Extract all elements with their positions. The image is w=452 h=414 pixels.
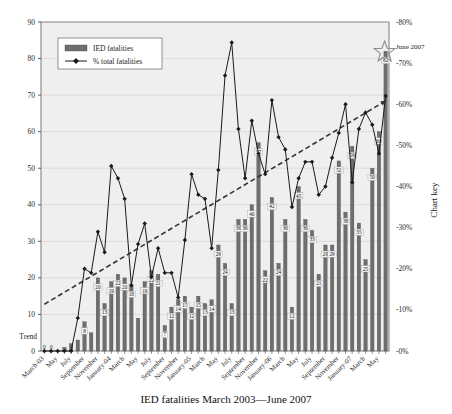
bar-value-label: 40 — [249, 211, 255, 217]
bar-value-label: 22 — [115, 280, 121, 286]
bar-value-label: 45 — [296, 193, 302, 199]
bar-value-label: 22 — [263, 277, 269, 283]
bar-value-label: 50 — [370, 174, 376, 180]
bar-value-label: 29 — [216, 251, 222, 257]
y-tick-label-left: 80 — [28, 54, 36, 63]
bar — [371, 168, 374, 351]
y-tick-label-right: -10% — [396, 305, 412, 314]
bar — [270, 197, 273, 351]
bar — [344, 212, 347, 351]
bar — [237, 219, 240, 351]
bar-value-label: 36 — [236, 225, 242, 231]
y-tick-label-left: 70 — [28, 91, 36, 100]
plot-area — [41, 22, 389, 351]
bar-value-label: 33 — [309, 236, 315, 242]
y-tick-label-left: 20 — [28, 273, 36, 282]
bar-value-label: 21 — [316, 280, 322, 286]
bar-value-label: 24 — [276, 269, 282, 275]
chart-title: IED fatalities March 2003—June 2007 — [140, 393, 312, 405]
legend-label-ied-fatalities: IED fatalities — [93, 44, 133, 53]
bar — [89, 333, 92, 351]
y-tick-label-right: -0% — [396, 347, 409, 356]
y-tick-label-right: -50% — [396, 141, 412, 150]
chart-container: 8201319222018192221712141512151314292413… — [0, 0, 452, 414]
y-tick-label-right: -60% — [396, 100, 412, 109]
annotation-june-2007: June 2007 — [396, 43, 425, 51]
bar-value-label: 20 — [95, 284, 101, 290]
bar-value-label: 0 — [50, 344, 53, 350]
ied-fatalities-chart: 8201319222018192221712141512151314292413… — [0, 0, 452, 414]
bar-value-label: 12 — [189, 313, 195, 319]
bar-value-label: 36 — [303, 225, 309, 231]
bar-value-label: 19 — [142, 288, 148, 294]
bar-value-label: 52 — [336, 167, 342, 173]
bar — [297, 187, 300, 352]
bar — [223, 263, 226, 351]
bar — [83, 322, 86, 351]
y-tick-label-left: 90 — [28, 18, 36, 27]
y-tick-label-left: 30 — [28, 237, 36, 246]
bar-value-label: 14 — [176, 306, 182, 312]
bar-value-label: 25 — [363, 266, 369, 272]
bar — [357, 223, 360, 351]
bar-value-label: 38 — [343, 218, 349, 224]
trend-axis-label: Trend — [19, 332, 37, 341]
bar — [310, 230, 313, 351]
y-tick-label-right: -70% — [396, 59, 412, 68]
bar — [284, 219, 287, 351]
bar — [217, 245, 220, 351]
bar-value-label: 29 — [330, 251, 336, 257]
bar-value-label: 19 — [109, 288, 115, 294]
y-tick-label-right: -80% — [396, 18, 412, 27]
bar-value-label: 14 — [209, 306, 215, 312]
bar-value-label: 36 — [283, 225, 289, 231]
bar — [304, 219, 307, 351]
bar-value-label: 13 — [102, 309, 108, 315]
y-tick-label-right: -40% — [396, 182, 412, 191]
bar — [277, 263, 280, 351]
bar — [364, 260, 367, 351]
y-axis-right-title: Chart key — [429, 182, 439, 218]
bar-value-label: 35 — [356, 229, 362, 235]
bar-value-label: 12 — [289, 313, 295, 319]
bar — [330, 245, 333, 351]
bar — [377, 132, 380, 351]
bar-value-label: 21 — [156, 280, 162, 286]
bar — [243, 219, 246, 351]
bar-value-label: 15 — [196, 302, 202, 308]
y-tick-label-left: 40 — [28, 200, 36, 209]
bar — [250, 205, 253, 351]
legend-label-percent-total-fatalities: % total fatalities — [93, 57, 142, 66]
bar-value-label: 12 — [169, 313, 175, 319]
bar-value-label: 42 — [269, 203, 275, 209]
y-tick-label-left: 10 — [28, 310, 36, 319]
legend-swatch-bar — [65, 45, 87, 51]
bar-value-label: 15 — [182, 302, 188, 308]
bar-value-label: 29 — [323, 251, 329, 257]
bar — [76, 340, 79, 351]
bar-value-label: 7 — [164, 331, 167, 337]
bar — [337, 161, 340, 351]
y-tick-label-right: -30% — [396, 223, 412, 232]
bar — [324, 245, 327, 351]
bar — [257, 143, 260, 351]
bar-value-label: 20 — [122, 284, 128, 290]
bar-value-label: 13 — [202, 309, 208, 315]
bar — [163, 325, 166, 351]
bar — [136, 318, 139, 351]
bar-value-label: 18 — [129, 291, 135, 297]
bar-value-label: 8 — [83, 328, 86, 334]
y-tick-label-left: 0 — [31, 347, 35, 356]
y-tick-label-left: 60 — [28, 127, 36, 136]
y-tick-label-right: -20% — [396, 264, 412, 273]
chart-legend: IED fatalities% total fatalities — [58, 38, 162, 69]
bar-value-label: 24 — [222, 269, 228, 275]
bar-value-label: 13 — [229, 309, 235, 315]
y-tick-label-left: 50 — [28, 164, 36, 173]
bar-value-label: 36 — [243, 225, 249, 231]
